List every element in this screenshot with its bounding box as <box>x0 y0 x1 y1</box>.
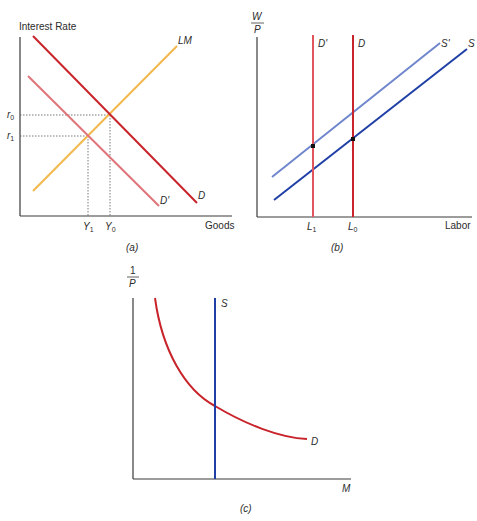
panel-a-d-prime-curve <box>28 76 159 206</box>
panel-a-caption: (a) <box>126 242 138 253</box>
panel-c-d-curve <box>155 298 307 439</box>
panel-b-y-axis-denominator: P <box>254 24 261 35</box>
panel-b-s-prime-curve <box>272 43 440 177</box>
panel-c-d-label: D <box>311 436 318 447</box>
panel-b-caption: (b) <box>331 242 343 253</box>
panel-b: W P D' D S' S L1 L0 Labor (b) <box>251 11 475 253</box>
panel-a-d-label: D <box>198 190 205 201</box>
panel-b-s-prime-label: S' <box>441 38 451 49</box>
panel-c-caption: (c) <box>240 503 252 514</box>
panel-b-equilibrium-dot-0 <box>351 137 355 141</box>
panel-b-x-axis-label: Labor <box>445 220 471 231</box>
panel-a-y0-label: Y0 <box>105 221 116 233</box>
economics-diagram: Interest Rate LM D D' r0 r1 Y1 Y0 Goods … <box>0 0 477 521</box>
panel-a: Interest Rate LM D D' r0 r1 Y1 Y0 Goods … <box>7 21 234 253</box>
panel-a-y-axis-label: Interest Rate <box>19 21 77 32</box>
panel-b-s-label: S <box>468 38 475 49</box>
panel-c-y-axis-denominator: P <box>129 278 136 289</box>
panel-a-x-axis-label: Goods <box>205 220 234 231</box>
panel-a-d-prime-label: D' <box>160 195 170 206</box>
panel-a-d-curve <box>33 36 197 203</box>
panel-c-s-label: S <box>221 298 228 309</box>
panel-b-d-prime-label: D' <box>318 38 328 49</box>
panel-a-r1-label: r1 <box>7 130 14 142</box>
panel-b-l0-label: L0 <box>348 221 358 233</box>
panel-b-y-axis-numerator: W <box>252 11 263 22</box>
panel-a-r0-label: r0 <box>7 109 14 121</box>
panel-b-equilibrium-dot-1 <box>311 144 315 148</box>
panel-c-x-axis-label: M <box>342 483 351 494</box>
panel-b-l1-label: L1 <box>307 221 317 233</box>
panel-a-y1-label: Y1 <box>83 221 94 233</box>
panel-a-lm-curve <box>33 46 177 191</box>
panel-c-y-axis-numerator: 1 <box>130 265 136 276</box>
panel-b-d-label: D <box>358 38 365 49</box>
panel-b-s-curve <box>274 49 467 200</box>
panel-a-lm-label: LM <box>178 35 193 46</box>
panel-c: 1 P S D M (c) <box>127 265 351 514</box>
